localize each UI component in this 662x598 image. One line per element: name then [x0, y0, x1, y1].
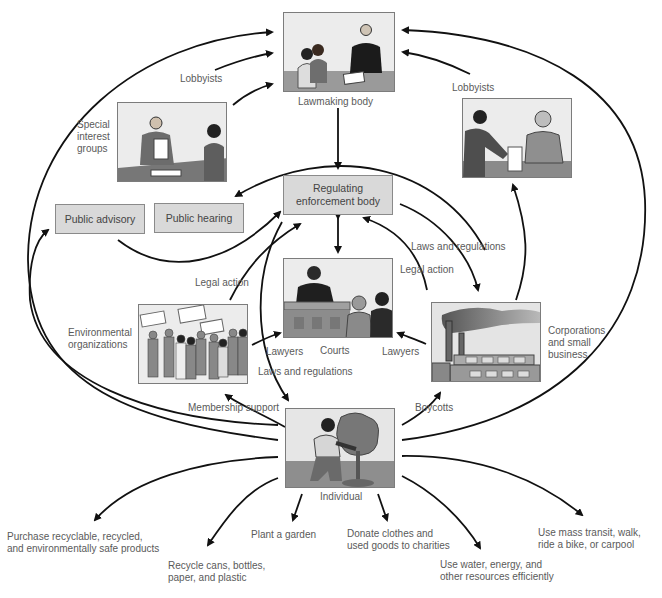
environmental-organizations-label: Environmental organizations: [68, 327, 132, 351]
lobbyists-label-right: Lobbyists: [452, 82, 494, 94]
public-advisory-box: Public advisory: [55, 204, 145, 234]
lawmaking-body-label: Lawmaking body: [298, 96, 373, 108]
courts-label: Courts: [320, 345, 349, 357]
action-purchase: Purchase recyclable, recycled, and envir…: [7, 531, 159, 555]
laws-regulations-label-right: Laws and regulations: [411, 241, 506, 253]
action-donate: Donate clothes and used goods to chariti…: [347, 528, 450, 552]
lobbyists-picture: [462, 98, 572, 178]
courts-illustration-icon: [284, 259, 393, 338]
tree-planting-illustration-icon: [286, 409, 395, 488]
boycotts-label: Boycotts: [415, 402, 453, 414]
individual-label: Individual: [320, 491, 362, 503]
special-interest-picture: [117, 102, 227, 182]
arrow-lawyers-right: [398, 333, 426, 344]
corporations-label: Corporations and small business: [548, 325, 605, 361]
action-recycle: Recycle cans, bottles, paper, and plasti…: [168, 560, 265, 584]
arrow-lawyers-left: [252, 333, 280, 345]
environmental-organizations-picture: [138, 304, 248, 384]
action-plant-garden: Plant a garden: [251, 529, 316, 541]
lawyers-label-left: Lawyers: [266, 346, 303, 358]
lawmakers-illustration-icon: [284, 13, 395, 92]
arrow-action-donate: [378, 494, 387, 520]
regulating-enforcement-body-box: Regulating enforcement body: [283, 175, 393, 215]
courts-picture: [283, 258, 393, 338]
arrow-special-interest-to-lawmaking: [233, 84, 272, 105]
arrow-lobbyists-left: [215, 53, 272, 70]
legal-action-label-right: Legal action: [400, 264, 454, 276]
public-hearing-box: Public hearing: [154, 203, 244, 233]
special-interest-illustration-icon: [118, 103, 227, 182]
arrow-action-purchase: [95, 457, 278, 520]
individual-picture: [285, 408, 395, 488]
action-use-water-energy: Use water, energy, and other resources e…: [440, 559, 554, 583]
action-mass-transit: Use mass transit, walk, ride a bike, or …: [538, 527, 641, 551]
legal-action-label-left: Legal action: [195, 277, 249, 289]
arrow-corporations-to-lobbyists: [513, 185, 525, 300]
lobbyists-label-left: Lobbyists: [180, 73, 222, 85]
lobbyists-illustration-icon: [463, 99, 572, 178]
arrow-action-garden: [293, 494, 302, 520]
protesters-illustration-icon: [139, 305, 248, 384]
arrow-action-transit: [402, 456, 582, 515]
special-interest-groups-label: Special interest groups: [77, 119, 110, 155]
arrow-lobbyists-right: [403, 52, 470, 74]
corporations-picture: [431, 302, 541, 382]
lawmaking-body-picture: [283, 12, 395, 92]
lawyers-label-right: Lawyers: [382, 346, 419, 358]
membership-support-label: Membership support: [188, 402, 279, 414]
laws-regulations-label-bottom: Laws and regulations: [258, 366, 353, 378]
factory-illustration-icon: [432, 303, 541, 382]
